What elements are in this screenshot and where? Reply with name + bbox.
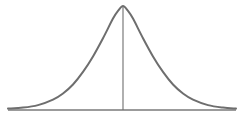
bell-curve-figure (0, 0, 241, 122)
bell-curve-plot (0, 0, 241, 122)
bell-curve (8, 6, 236, 109)
